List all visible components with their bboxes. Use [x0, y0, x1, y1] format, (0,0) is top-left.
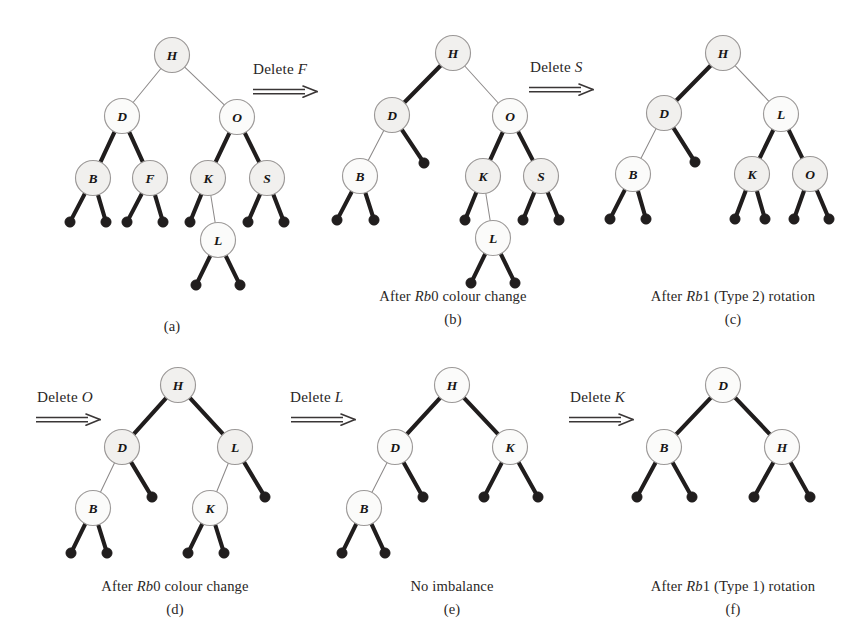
tree-edge-thick: [100, 131, 115, 163]
transition-prefix: Delete: [530, 58, 575, 75]
tree-panel-e: HDKB: [337, 368, 543, 559]
arrow-stroke: [579, 84, 593, 90]
panel-letter-text: (d): [166, 601, 183, 618]
external-leaf-node: [102, 548, 112, 558]
tree-node-label: D: [658, 106, 669, 121]
panel-letter-text: (b): [444, 311, 461, 328]
tree-node-label: D: [116, 109, 127, 124]
panel-letter-text: (f): [725, 601, 740, 618]
tree-edge-thick: [189, 397, 224, 435]
tree-edge-thin: [486, 192, 491, 221]
external-leaf-node: [332, 215, 342, 225]
external-leaf-node: [690, 157, 700, 167]
external-leaf-node: [460, 215, 470, 225]
arrow-stroke: [341, 414, 355, 420]
tree-edge-thick: [734, 397, 770, 435]
panel-letter-text: (e): [444, 601, 461, 618]
transition-key: S: [575, 58, 583, 75]
external-leaf-node: [687, 492, 697, 502]
tree-node-label: H: [776, 440, 788, 455]
external-leaf-node: [380, 548, 390, 558]
tree-edge-thick: [518, 131, 534, 162]
external-leaf-node: [191, 280, 201, 290]
tree-node-label: K: [504, 440, 515, 455]
external-leaf-node: [824, 214, 834, 224]
tree-edge-thick: [244, 132, 259, 163]
tree-node-label: K: [477, 169, 488, 184]
tree-node-label: D: [717, 378, 728, 393]
tree-edge-thick: [816, 189, 828, 217]
external-leaf-node: [122, 217, 132, 227]
arrow-stroke: [341, 420, 355, 426]
external-leaf-node: [805, 492, 815, 502]
tree-node-label: B: [354, 169, 364, 184]
tree-node-label: H: [447, 46, 459, 61]
transition-label-t1: Delete F: [253, 60, 307, 78]
tree-node-label: L: [488, 231, 497, 246]
tree-edge-thick: [403, 461, 422, 495]
tree-edge-thin: [734, 65, 769, 102]
tree-node-label: B: [358, 501, 368, 516]
tree-edge-thick: [638, 190, 646, 217]
external-leaf-node: [418, 492, 428, 502]
tree-node-label: D: [389, 440, 400, 455]
panel-letter-text: (a): [164, 318, 181, 335]
external-leaf-node: [369, 215, 379, 225]
external-leaf-node: [65, 217, 75, 227]
external-leaf-node: [235, 280, 245, 290]
external-leaf-node: [419, 158, 429, 168]
tree-edge-thick: [795, 190, 805, 218]
external-leaf-node: [337, 548, 347, 558]
tree-node-label: K: [202, 171, 213, 186]
tree-edge-thick: [472, 253, 486, 282]
tree-edge-thick: [371, 523, 384, 551]
tree-node-label: F: [144, 171, 154, 186]
tree-node-label: B: [627, 167, 637, 182]
tree-panel-c: HDLBKO: [605, 36, 834, 225]
tree-node-label: H: [446, 378, 458, 393]
arrow-stroke: [619, 414, 633, 420]
tree-edge-thin: [464, 65, 499, 104]
panel-letter-text: (c): [725, 311, 742, 328]
tree-edge-thick: [71, 193, 86, 221]
tree-edge-thick: [365, 192, 373, 219]
tree-edge-thick: [673, 127, 694, 160]
tree-node-label: O: [805, 167, 815, 182]
external-leaf-node: [158, 217, 168, 227]
tree-edge-thick: [129, 131, 143, 163]
double-arrow-icon: [568, 412, 634, 428]
tree-edge-thick: [790, 461, 809, 495]
external-leaf-node: [147, 492, 157, 502]
tree-edge-thick: [406, 397, 441, 435]
transition-label-t2: Delete S: [530, 58, 583, 76]
tree-edge-thick: [757, 190, 765, 217]
tree-edge-thin: [132, 68, 161, 103]
external-leaf-node: [466, 278, 476, 288]
tree-node-label: L: [776, 107, 785, 122]
tree-edge-thin: [100, 462, 115, 493]
tree-edge-thick: [736, 189, 747, 217]
external-leaf-node: [279, 217, 289, 227]
transition-key: K: [615, 388, 625, 405]
external-leaf-node: [730, 214, 740, 224]
double-arrow-icon: [252, 84, 318, 100]
tree-edge-thick: [98, 194, 106, 220]
transition-label-t5: Delete K: [570, 388, 625, 406]
transition-key: F: [298, 60, 307, 77]
tree-node-label: B: [87, 501, 97, 516]
transition-prefix: Delete: [253, 60, 298, 77]
tree-edge-thick: [755, 461, 774, 495]
tree-edge-thick: [130, 461, 151, 495]
tree-edge-thick: [98, 524, 107, 551]
tree-edge-thick: [759, 129, 774, 159]
external-leaf-node: [479, 492, 489, 502]
external-leaf-node: [749, 492, 759, 502]
tree-edge-thick: [676, 65, 712, 101]
tree-node-label: B: [87, 171, 97, 186]
tree-edge-thick: [611, 189, 626, 218]
tree-edge-thick: [675, 397, 711, 435]
tree-node-label: S: [537, 169, 545, 184]
tree-edge-thick: [273, 193, 283, 220]
panel-caption-text: No imbalance: [410, 578, 493, 595]
tree-panel-d: HDLBK: [66, 368, 270, 559]
